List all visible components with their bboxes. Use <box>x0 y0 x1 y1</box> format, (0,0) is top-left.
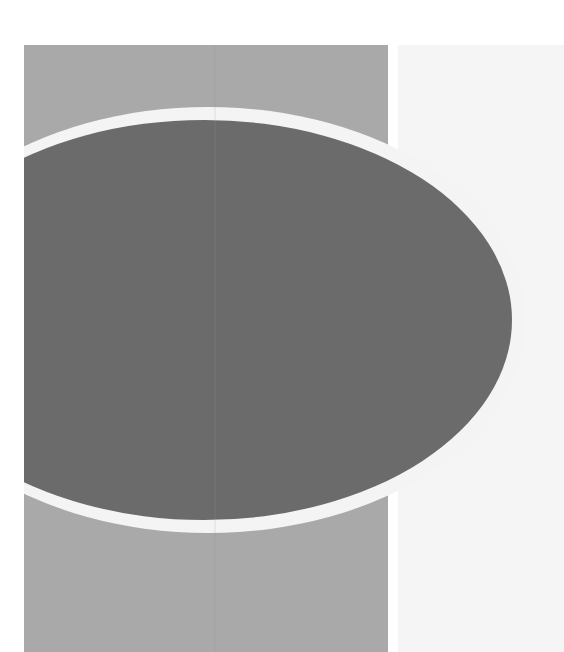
artwork-svg <box>0 0 564 652</box>
cover-artwork <box>0 0 564 652</box>
